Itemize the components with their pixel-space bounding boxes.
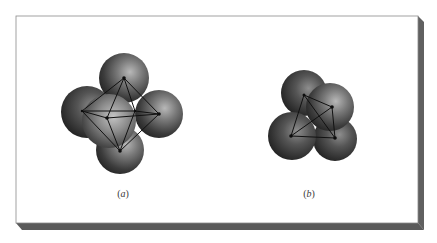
caption-a: (a): [103, 188, 143, 199]
caption-b: (b): [289, 188, 329, 199]
figure-canvas: [0, 0, 437, 243]
